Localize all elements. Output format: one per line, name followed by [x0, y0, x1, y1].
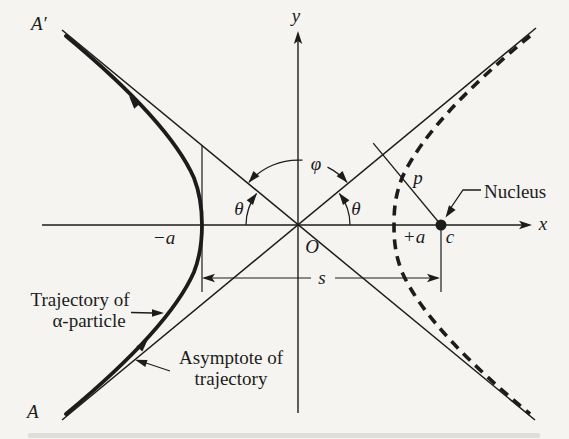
label-y-axis: y [290, 5, 301, 26]
cut-off-caption-remnant [28, 433, 540, 438]
rutherford-scattering-diagram: A′ A y x O φ θ θ −a +a c s p Nucleus Tra… [0, 0, 569, 439]
paper-background [0, 0, 569, 439]
label-trajectory-caption-1: Trajectory of [30, 289, 130, 310]
label-minus-a: −a [153, 227, 175, 248]
label-plus-a: +a [403, 226, 425, 247]
label-asymptote-caption-1: Asymptote of [179, 347, 284, 368]
label-phi: φ [311, 153, 322, 174]
label-asymptote-caption-2: trajectory [195, 368, 268, 389]
label-trajectory-caption-2: α-particle [52, 310, 125, 331]
label-origin: O [305, 236, 319, 257]
label-theta-right: θ [351, 198, 360, 219]
label-x-axis: x [538, 213, 548, 234]
label-s: s [318, 267, 325, 288]
label-nucleus: Nucleus [484, 181, 546, 202]
label-p: p [411, 167, 423, 188]
label-a-prime: A′ [29, 13, 48, 34]
label-a: A [25, 401, 39, 422]
trajectory-caption-leader-line [131, 313, 153, 314]
label-theta-left: θ [234, 198, 243, 219]
label-c: c [446, 226, 455, 247]
